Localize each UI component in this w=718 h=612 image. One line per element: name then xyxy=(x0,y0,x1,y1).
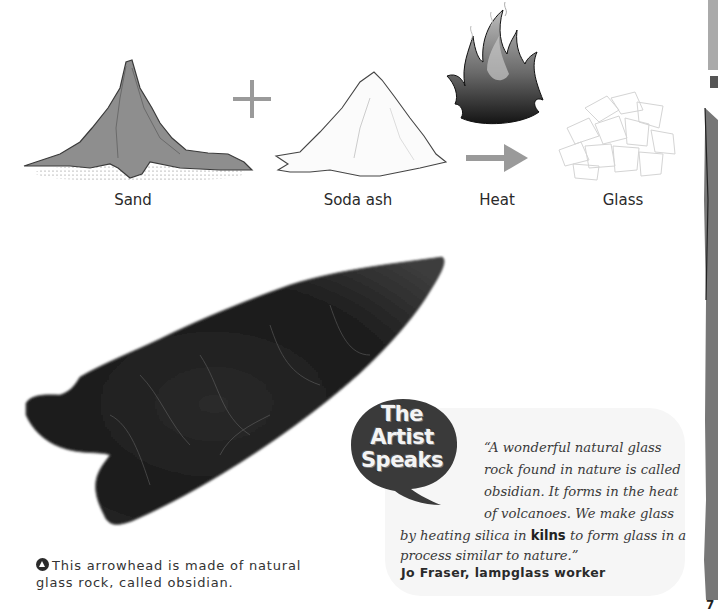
quote-line-1: “A wonderful natural glass xyxy=(484,437,662,459)
label-heat: Heat xyxy=(437,191,557,209)
sand-pile-icon xyxy=(20,58,260,188)
label-glass: Glass xyxy=(563,191,683,209)
badge-line-artist: Artist xyxy=(354,426,450,449)
label-sand: Sand xyxy=(73,191,193,209)
arrow-right-icon xyxy=(466,142,530,174)
plus-icon xyxy=(233,78,273,118)
page-number: 7 xyxy=(706,598,714,612)
triangle-up-circle-icon xyxy=(36,558,49,571)
quote-line-4: of volcanoes. We make glass xyxy=(484,503,674,525)
quote-line-5: by heating silica in kilns to form glass… xyxy=(400,525,686,547)
quote-author: Jo Fraser, lampglass worker xyxy=(401,565,606,580)
glossary-term-kilns[interactable]: kilns xyxy=(531,528,566,543)
label-soda-ash: Soda ash xyxy=(298,191,418,209)
adjacent-page-edge xyxy=(700,0,718,612)
badge-line-speaks: Speaks xyxy=(354,449,450,472)
quote-line-2: rock found in nature is called xyxy=(484,459,681,481)
glass-shards-icon xyxy=(555,88,685,183)
flame-icon xyxy=(443,0,548,130)
quote-line-5-start: by heating silica in xyxy=(400,528,531,543)
photo-caption: This arrowhead is made of natural glass … xyxy=(36,557,336,591)
soda-ash-pile-icon xyxy=(270,68,450,183)
artist-speaks-badge: The Artist Speaks xyxy=(354,403,450,472)
quote-line-3: obsidian. It forms in the heat xyxy=(484,481,678,503)
caption-text: This arrowhead is made of natural glass … xyxy=(36,558,301,590)
quote-line-6: process similar to nature.” xyxy=(400,545,579,567)
badge-line-the: The xyxy=(354,403,450,426)
quote-line-5-end: to form glass in a xyxy=(566,528,686,543)
